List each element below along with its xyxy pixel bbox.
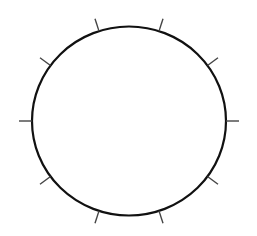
- circle-diagram: [0, 0, 257, 236]
- tick-mark: [208, 58, 219, 66]
- tick-mark: [159, 19, 163, 31]
- circle-outline: [32, 27, 226, 216]
- tick-marks: [19, 19, 239, 223]
- tick-mark: [95, 211, 99, 223]
- tick-mark: [208, 177, 219, 185]
- tick-mark: [40, 58, 51, 66]
- tick-mark: [95, 19, 99, 31]
- tick-mark: [159, 211, 163, 223]
- tick-mark: [40, 177, 51, 185]
